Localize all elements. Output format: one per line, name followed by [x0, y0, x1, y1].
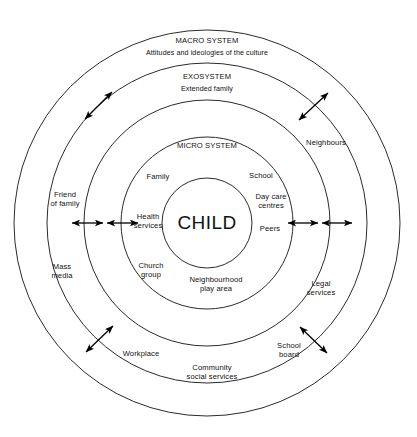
node-label-day-care: Day care centres: [255, 193, 286, 210]
arrow-upper-right: [299, 93, 328, 120]
node-label-friend: Friend of family: [50, 191, 79, 208]
node-label-neighbourhood: Neighbourhood play area: [189, 276, 242, 293]
ring-sublabel-macro-system: Attitudes and ideologies of the culture: [146, 50, 268, 58]
arrow-lower-left: [86, 326, 113, 352]
node-label-school: School: [249, 172, 273, 181]
ecological-systems-diagram: MACRO SYSTEM Attitudes and ideologies of…: [0, 0, 417, 437]
node-label-school-board: School board: [277, 342, 301, 359]
ring-label-micro-system: MICRO SYSTEM: [177, 142, 237, 151]
node-label-legal: Legal services: [307, 280, 336, 297]
node-label-community: Community social services: [187, 364, 238, 381]
node-label-peers: Peers: [260, 225, 280, 234]
arrow-upper-left: [85, 92, 112, 119]
node-label-health: Health services: [134, 213, 163, 230]
ring-label-exosystem: EXOSYSTEM: [183, 73, 231, 82]
ring-label-macro-system: MACRO SYSTEM: [176, 37, 239, 46]
node-label-mass-media: Mass media: [51, 263, 72, 280]
core-label-child: CHILD: [177, 212, 236, 233]
ring-sublabel-exosystem: Extended family: [181, 86, 233, 94]
node-label-neighbours: Neighbours: [306, 139, 346, 148]
node-label-church: Church group: [138, 262, 163, 279]
node-label-workplace: Workplace: [123, 350, 160, 359]
node-label-family: Family: [147, 173, 170, 182]
arrow-lower-right: [300, 327, 327, 353]
